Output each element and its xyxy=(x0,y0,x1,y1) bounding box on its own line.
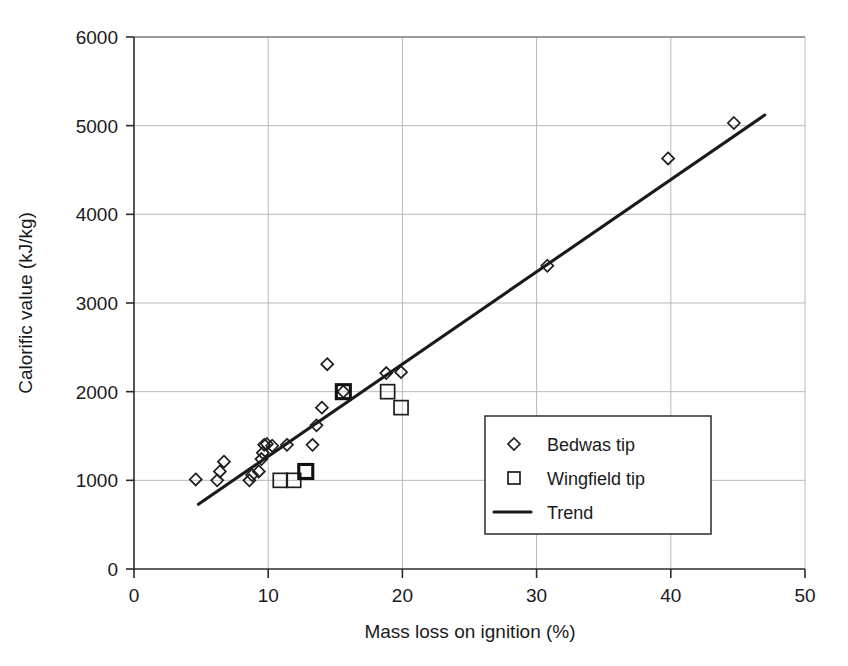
scatter-plot: 01020304050 0100020003000400050006000 Ma… xyxy=(0,0,848,666)
x-axis-title: Mass loss on ignition (%) xyxy=(364,621,575,642)
y-tick-label: 0 xyxy=(107,559,118,580)
x-tick-label: 0 xyxy=(129,585,140,606)
y-tick-label: 3000 xyxy=(76,293,118,314)
chart-legend: Bedwas tipWingfield tipTrend xyxy=(485,416,711,534)
legend-label: Trend xyxy=(547,503,593,523)
chart-figure: 01020304050 0100020003000400050006000 Ma… xyxy=(0,0,848,666)
x-tick-label: 40 xyxy=(660,585,681,606)
x-tick-label: 10 xyxy=(258,585,279,606)
data-point-diamond xyxy=(728,117,740,129)
data-point-diamond xyxy=(316,402,328,414)
y-tick-label: 2000 xyxy=(76,382,118,403)
x-tick-label: 30 xyxy=(526,585,547,606)
legend-label: Bedwas tip xyxy=(547,435,635,455)
y-tick-label: 6000 xyxy=(76,27,118,48)
data-point-square xyxy=(394,401,408,415)
data-point-diamond xyxy=(662,152,674,164)
data-point-diamond xyxy=(190,473,202,485)
y-tick-label: 4000 xyxy=(76,204,118,225)
series-wingfield-tip xyxy=(273,385,408,488)
data-point-diamond xyxy=(321,358,333,370)
y-axis-title: Calorific value (kJ/kg) xyxy=(15,212,36,394)
x-tick-labels: 01020304050 xyxy=(129,585,816,606)
y-tick-labels: 0100020003000400050006000 xyxy=(76,27,118,580)
x-tick-label: 20 xyxy=(392,585,413,606)
legend-label: Wingfield tip xyxy=(547,469,645,489)
y-tick-label: 1000 xyxy=(76,470,118,491)
y-tick-label: 5000 xyxy=(76,116,118,137)
data-point-diamond xyxy=(306,439,318,451)
x-tick-label: 50 xyxy=(794,585,815,606)
